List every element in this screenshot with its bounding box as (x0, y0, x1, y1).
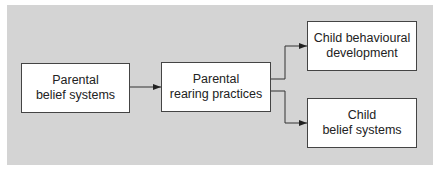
node-parental-belief-systems: Parental belief systems (21, 63, 130, 113)
node-label-line1: Child behavioural (314, 31, 411, 46)
node-label-line2: belief systems (36, 88, 115, 103)
node-parental-rearing-practices: Parental rearing practices (161, 62, 271, 112)
node-label-line1: Child (348, 108, 377, 123)
node-label-line2: development (326, 46, 398, 61)
arrow-rearing-to-behavioural (271, 46, 307, 79)
node-label-line2: belief systems (322, 123, 401, 138)
node-child-belief-systems: Child belief systems (307, 98, 417, 148)
node-label-line1: Parental (193, 72, 240, 87)
node-label-line1: Parental (52, 73, 99, 88)
node-child-behavioural-development: Child behavioural development (307, 21, 417, 71)
node-label-line2: rearing practices (170, 87, 262, 102)
arrow-rearing-to-child-beliefs (271, 91, 307, 123)
